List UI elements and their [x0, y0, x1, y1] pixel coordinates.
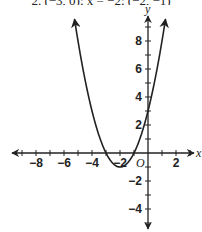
x-axis-label: x	[195, 146, 202, 160]
y-tick-label: 6	[135, 62, 142, 76]
ticks	[22, 27, 190, 223]
y-tick-label: 2	[135, 118, 142, 132]
y-axis-label: y	[144, 2, 151, 16]
y-tick-label: −2	[128, 174, 142, 188]
x-tick-label: −4	[85, 156, 99, 170]
tick-labels: −8−6−4−228642−2−4	[29, 34, 180, 216]
y-tick-label: 4	[135, 90, 142, 104]
y-tick-label: 8	[135, 34, 142, 48]
graph: −8−6−4−228642−2−4 x y O	[0, 0, 202, 232]
x-tick-label: 2	[173, 156, 180, 170]
x-tick-label: −6	[57, 156, 71, 170]
origin-label: O	[136, 156, 145, 170]
axes	[12, 16, 194, 229]
parabola-curve	[75, 19, 166, 167]
x-tick-label: −2	[113, 156, 127, 170]
x-tick-label: −8	[29, 156, 43, 170]
y-tick-label: −4	[128, 202, 142, 216]
